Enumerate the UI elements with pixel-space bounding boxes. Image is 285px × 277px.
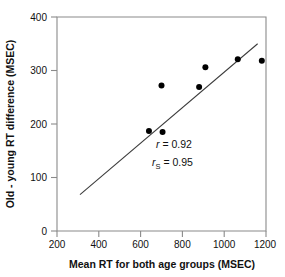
y-tick-label-200: 200 xyxy=(30,119,47,130)
y-tick-label-400: 400 xyxy=(30,12,47,23)
y-tick-label-0: 0 xyxy=(41,226,47,237)
scatter-plot-figure: 400 300 200 100 0 200 400 600 800 1000 1… xyxy=(0,0,285,277)
x-tick-label-1200: 1200 xyxy=(254,239,277,250)
x-tick-label-200: 200 xyxy=(49,239,66,250)
annotation-pearson-equals: = xyxy=(160,138,172,150)
plot-canvas: 400 300 200 100 0 200 400 600 800 1000 1… xyxy=(0,0,285,277)
data-point xyxy=(160,129,166,135)
correlation-annotations: r = 0.92 rS = 0.95 xyxy=(152,138,193,171)
axes-box xyxy=(57,17,266,231)
y-axis-ticks xyxy=(51,17,57,231)
plot-frame xyxy=(57,17,266,231)
y-tick-label-100: 100 xyxy=(30,172,47,183)
y-axis-title: Old - young RT difference (MSEC) xyxy=(4,40,16,209)
regression-fit-line xyxy=(80,44,258,195)
data-point xyxy=(202,64,208,70)
data-point xyxy=(196,84,202,90)
annotation-pearson-r: r = 0.92 xyxy=(156,138,192,150)
data-point xyxy=(146,128,152,134)
y-tick-labels: 400 300 200 100 0 xyxy=(30,12,47,237)
data-point xyxy=(259,58,265,64)
x-tick-label-1000: 1000 xyxy=(213,239,236,250)
x-axis-ticks xyxy=(57,231,266,237)
x-tick-labels: 200 400 600 800 1000 1200 xyxy=(49,239,277,250)
annotation-spearman-value: 0.95 xyxy=(172,156,193,168)
annotation-pearson-value: 0.92 xyxy=(171,138,192,150)
x-tick-label-800: 800 xyxy=(174,239,191,250)
y-tick-label-300: 300 xyxy=(30,65,47,76)
x-tick-label-600: 600 xyxy=(132,239,149,250)
annotation-spearman-rs: rS = 0.95 xyxy=(152,156,193,171)
annotation-spearman-equals: = xyxy=(161,156,173,168)
data-point xyxy=(235,56,241,62)
x-tick-label-400: 400 xyxy=(90,239,107,250)
data-point xyxy=(159,82,165,88)
x-axis-title: Mean RT for both age groups (MSEC) xyxy=(69,258,255,270)
